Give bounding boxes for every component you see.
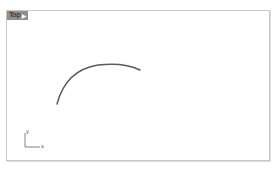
arc-curve[interactable] — [57, 64, 140, 104]
x-axis-label: x — [41, 144, 44, 149]
y-axis-label: y — [26, 129, 29, 134]
